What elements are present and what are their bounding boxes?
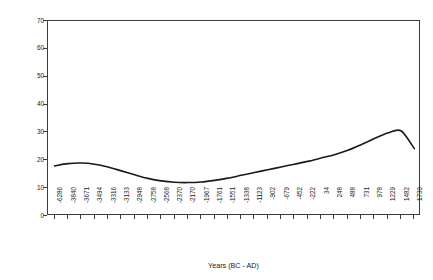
x-axis-tick-label: -3316 xyxy=(110,187,118,221)
x-axis-tick-label: 1739 xyxy=(416,187,424,221)
x-axis-tick-label: -1761 xyxy=(216,187,224,221)
y-axis-tick-mark xyxy=(43,215,47,216)
x-axis-tick-label: -2758 xyxy=(150,187,158,221)
x-axis-tick-mark xyxy=(134,215,135,219)
x-axis-tick-label: 34 xyxy=(323,187,331,221)
x-axis-tick-label: 731 xyxy=(363,187,371,221)
x-axis-tick-label: -6286 xyxy=(56,187,64,221)
x-axis-tick-label: -3133 xyxy=(123,187,131,221)
x-axis-tick-label: -2370 xyxy=(176,187,184,221)
x-axis-tick-label: 1229 xyxy=(389,187,397,221)
y-axis-tick-mark xyxy=(43,187,47,188)
x-axis-tick-mark xyxy=(333,215,334,219)
x-axis-tick-mark xyxy=(373,215,374,219)
x-axis-tick-mark xyxy=(174,215,175,219)
y-axis-tick-mark xyxy=(43,76,47,77)
x-axis-tick-mark xyxy=(360,215,361,219)
x-axis-tick-label: -3671 xyxy=(83,187,91,221)
x-axis-tick-mark xyxy=(347,215,348,219)
x-axis-tick-label: 978 xyxy=(376,187,384,221)
x-axis-tick-label: -1123 xyxy=(256,187,264,221)
x-axis-tick-mark xyxy=(280,215,281,219)
y-axis-tick-mark xyxy=(43,159,47,160)
y-axis-tick-mark xyxy=(43,131,47,132)
y-axis-tick-mark xyxy=(43,48,47,49)
x-axis-tick-mark xyxy=(94,215,95,219)
x-axis-tick-mark xyxy=(307,215,308,219)
x-axis-tick-label: -902 xyxy=(269,187,277,221)
x-axis-tick-mark xyxy=(214,215,215,219)
x-axis-tick-mark xyxy=(267,215,268,219)
y-axis-tick-mark xyxy=(43,104,47,105)
x-axis-tick-mark xyxy=(107,215,108,219)
x-axis-tick-label: -1967 xyxy=(203,187,211,221)
x-axis-tick-label: -222 xyxy=(309,187,317,221)
x-axis-tick-mark xyxy=(120,215,121,219)
x-axis-tick-label: -1551 xyxy=(229,187,237,221)
x-axis-tick-mark xyxy=(387,215,388,219)
x-axis-tick-mark xyxy=(253,215,254,219)
x-axis-tick-mark xyxy=(67,215,68,219)
x-axis-tick-label: -2170 xyxy=(189,187,197,221)
x-axis-tick-mark xyxy=(54,215,55,219)
x-axis-tick-mark xyxy=(80,215,81,219)
x-axis-tick-label: -2948 xyxy=(136,187,144,221)
x-axis-tick-label: 1482 xyxy=(403,187,411,221)
x-axis-tick-mark xyxy=(200,215,201,219)
y-axis-tick-mark xyxy=(43,20,47,21)
x-axis-tick-mark xyxy=(400,215,401,219)
x-axis-tick-label: -3840 xyxy=(70,187,78,221)
x-axis-tick-mark xyxy=(160,215,161,219)
x-axis-tick-label: -452 xyxy=(296,187,304,221)
x-axis-tick-mark xyxy=(227,215,228,219)
x-axis-tick-label: -3494 xyxy=(96,187,104,221)
x-axis-tick-labels: -6286-3840-3671-3494-3316-3133-2948-2758… xyxy=(0,0,433,280)
x-axis-tick-label: -679 xyxy=(283,187,291,221)
x-axis-tick-label: -2568 xyxy=(163,187,171,221)
x-axis-tick-mark xyxy=(293,215,294,219)
x-axis-tick-label: 488 xyxy=(349,187,357,221)
x-axis-tick-label: 248 xyxy=(336,187,344,221)
x-axis-tick-label: -1338 xyxy=(243,187,251,221)
x-axis-tick-mark xyxy=(147,215,148,219)
x-axis-tick-mark xyxy=(240,215,241,219)
pollen-chart-figure: Arboreal/Non-Arboreal Pollen % 706050403… xyxy=(0,0,433,280)
x-axis-title: Years (BC - AD) xyxy=(47,261,420,270)
x-axis-tick-mark xyxy=(413,215,414,219)
x-axis-tick-mark xyxy=(187,215,188,219)
x-axis-tick-mark xyxy=(320,215,321,219)
